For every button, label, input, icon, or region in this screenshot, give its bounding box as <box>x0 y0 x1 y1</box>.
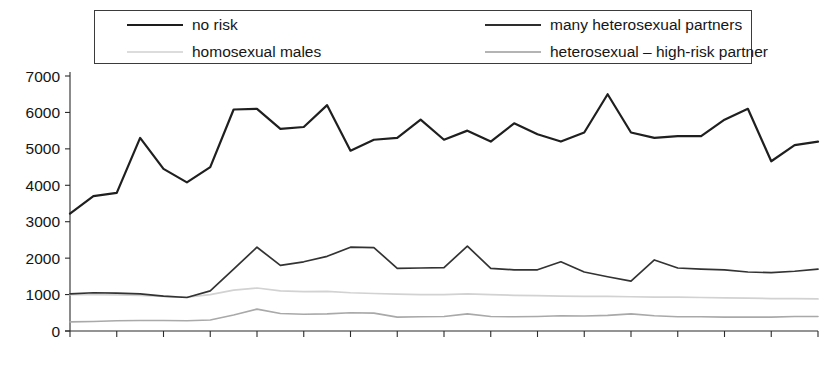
legend-item-no-risk: no risk <box>95 11 485 38</box>
y-axis-tick-label: 6000 <box>26 104 61 121</box>
series-line-heterosexual-high-risk-partner <box>70 309 818 322</box>
legend-item-many-heterosexual-partners: many heterosexual partners <box>485 11 753 38</box>
legend-label-no-risk: no risk <box>192 17 238 33</box>
series-line-no-risk <box>70 94 818 213</box>
y-axis-tick-labels: 01000200030004000500060007000 <box>26 68 61 340</box>
y-axis-tick-label: 2000 <box>26 250 61 267</box>
y-axis-tick-label: 5000 <box>26 140 61 157</box>
legend-swatch-heterosexual-high-risk-partner-icon <box>485 51 541 53</box>
chart-legend: no risk many heterosexual partners homos… <box>94 10 752 64</box>
y-axis-tick-label: 1000 <box>26 286 61 303</box>
legend-item-homosexual-males: homosexual males <box>95 38 485 65</box>
legend-swatch-no-risk-icon <box>127 24 183 26</box>
y-axis-tick-label: 7000 <box>26 68 61 85</box>
legend-label-homosexual-males: homosexual males <box>192 44 321 60</box>
legend-swatch-many-heterosexual-partners-icon <box>485 24 541 26</box>
plot-svg: 01000200030004000500060007000 2 894 892 … <box>0 64 828 339</box>
data-series-group <box>70 94 818 322</box>
y-axis-tick-label: 4000 <box>26 177 61 194</box>
legend-item-heterosexual-high-risk-partner: heterosexual – high-risk partner <box>485 38 753 65</box>
legend-label-heterosexual-high-risk-partner: heterosexual – high-risk partner <box>550 44 768 60</box>
legend-label-many-heterosexual-partners: many heterosexual partners <box>550 17 742 33</box>
y-axis-tick-label: 3000 <box>26 213 61 230</box>
series-line-many-heterosexual-partners <box>70 246 818 297</box>
legend-swatch-homosexual-males-icon <box>127 51 183 53</box>
line-chart: no risk many heterosexual partners homos… <box>0 0 828 369</box>
x-axis-ticks <box>70 331 818 337</box>
y-axis-tick-label: 0 <box>51 323 60 340</box>
plot-area: 01000200030004000500060007000 2 894 892 … <box>0 64 828 339</box>
y-axis-ticks <box>65 76 70 331</box>
